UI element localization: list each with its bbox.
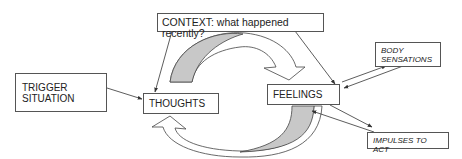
trigger-label-line1: TRIGGER (22, 82, 100, 93)
context-label: CONTEXT: what happened recently? (162, 17, 319, 39)
cycle-arrow-thoughts-to-feelings (170, 33, 305, 82)
feelings-label: FEELINGS (273, 89, 334, 100)
impulses-label: IMPULSES TO ACT (373, 136, 443, 154)
cbt-cycle-diagram: CONTEXT: what happened recently? TRIGGER… (0, 0, 462, 159)
thoughts-box: THOUGHTS (143, 93, 219, 114)
body-label-line2: SENSATIONS (381, 55, 435, 64)
edge-feelings-impulses (330, 105, 372, 127)
impulses-to-act-box: IMPULSES TO ACT (367, 132, 449, 149)
thoughts-label: THOUGHTS (149, 98, 213, 109)
edge-context-thoughts (155, 31, 172, 92)
edge-body-feelings (344, 66, 403, 88)
body-sensations-box: BODY SENSATIONS (375, 42, 441, 67)
trigger-label-line2: SITUATION (22, 93, 100, 104)
edge-trigger-thoughts (107, 88, 142, 99)
edge-feelings-body (342, 66, 386, 82)
body-label-line1: BODY (381, 46, 435, 55)
context-box: CONTEXT: what happened recently? (157, 13, 324, 32)
edge-impulses-feelings (312, 111, 374, 132)
feelings-box: FEELINGS (267, 84, 340, 105)
trigger-situation-box: TRIGGER SITUATION (15, 73, 107, 112)
